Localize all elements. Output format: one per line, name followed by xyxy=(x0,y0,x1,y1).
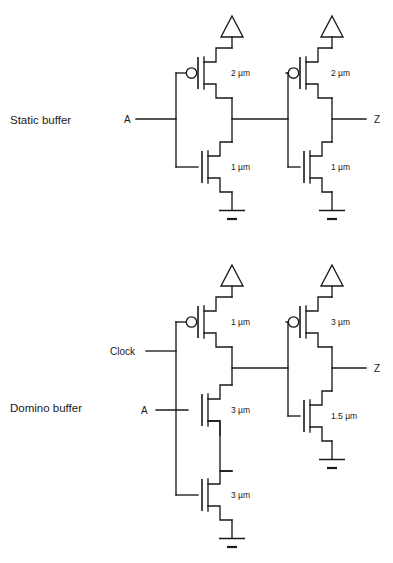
size-label-db-n3: 1.5 µm xyxy=(331,411,357,421)
nmos-source-sb1 xyxy=(208,178,232,192)
nmos-source-db2 xyxy=(310,427,332,441)
size-label-sb-p1: 2 µm xyxy=(231,68,250,78)
size-label-db-p2: 3 µm xyxy=(331,317,350,327)
size-label-sb-n1: 1 µm xyxy=(231,162,250,172)
series-node-db xyxy=(208,421,232,471)
nmos-source-db-clk xyxy=(208,506,232,520)
nmos-drain-db-a xyxy=(208,385,232,399)
domino-stage-2: 3 µm 1.5 µm Z xyxy=(286,265,380,468)
vdd-symbol-db2 xyxy=(321,265,343,297)
output-label-z-static: Z xyxy=(374,114,380,125)
nmos-drain-db2 xyxy=(310,391,332,405)
static-stage-2: 2 µm 1 µm Z xyxy=(286,16,380,219)
nmos-drain-sb2 xyxy=(310,142,332,156)
input-label-a-domino: A xyxy=(141,405,148,416)
nmos-drain-db-clk xyxy=(208,471,232,484)
pmos-drain-sb2 xyxy=(306,84,332,98)
domino-stage-1: Clock A 1 µm 3 µm xyxy=(110,265,250,547)
gnd-symbol-db2 xyxy=(319,441,345,468)
pmos-source-db1 xyxy=(204,297,232,311)
inversion-bubble-icon-sb1 xyxy=(186,68,196,78)
input-label-clock: Clock xyxy=(110,346,136,357)
pmos-drain-db1 xyxy=(204,333,232,347)
gnd-symbol-sb2 xyxy=(319,192,345,219)
nmos-source-db-a xyxy=(208,421,220,435)
size-label-db-n1: 3 µm xyxy=(231,405,250,415)
inversion-bubble-icon-db2 xyxy=(288,317,298,327)
size-label-db-p1: 1 µm xyxy=(231,317,250,327)
nmos-source-sb2 xyxy=(310,178,332,192)
gnd-symbol-sb1 xyxy=(219,192,245,219)
inversion-bubble-icon-sb2 xyxy=(288,68,298,78)
static-stage-1: A 2 µm 1 µm xyxy=(124,16,250,219)
domino-buffer-circuit: Domino buffer Clock A 1 µm xyxy=(10,265,380,547)
pmos-drain-db2 xyxy=(306,333,332,347)
pmos-source-db2 xyxy=(306,297,332,311)
size-label-sb-n2: 1 µm xyxy=(331,162,350,172)
domino-buffer-label: Domino buffer xyxy=(10,402,82,414)
input-label-a-static: A xyxy=(124,114,131,125)
pmos-drain-sb1 xyxy=(204,84,232,98)
size-label-db-n2: 3 µm xyxy=(231,490,250,500)
vdd-symbol-sb2 xyxy=(321,16,343,48)
static-buffer-label: Static buffer xyxy=(10,114,71,126)
pmos-source-sb2 xyxy=(306,48,332,62)
vdd-symbol-db1 xyxy=(221,265,243,297)
circuit-figure: Static buffer A 2 µm xyxy=(0,0,393,563)
output-label-z-domino: Z xyxy=(374,363,380,374)
gnd-symbol-db1 xyxy=(219,520,245,547)
static-buffer-circuit: Static buffer A 2 µm xyxy=(10,16,380,219)
inversion-bubble-icon-db1 xyxy=(186,317,196,327)
vdd-symbol-sb1 xyxy=(221,16,243,48)
pmos-source-sb1 xyxy=(204,48,232,62)
nmos-drain-sb1 xyxy=(208,142,232,156)
size-label-sb-p2: 2 µm xyxy=(331,68,350,78)
